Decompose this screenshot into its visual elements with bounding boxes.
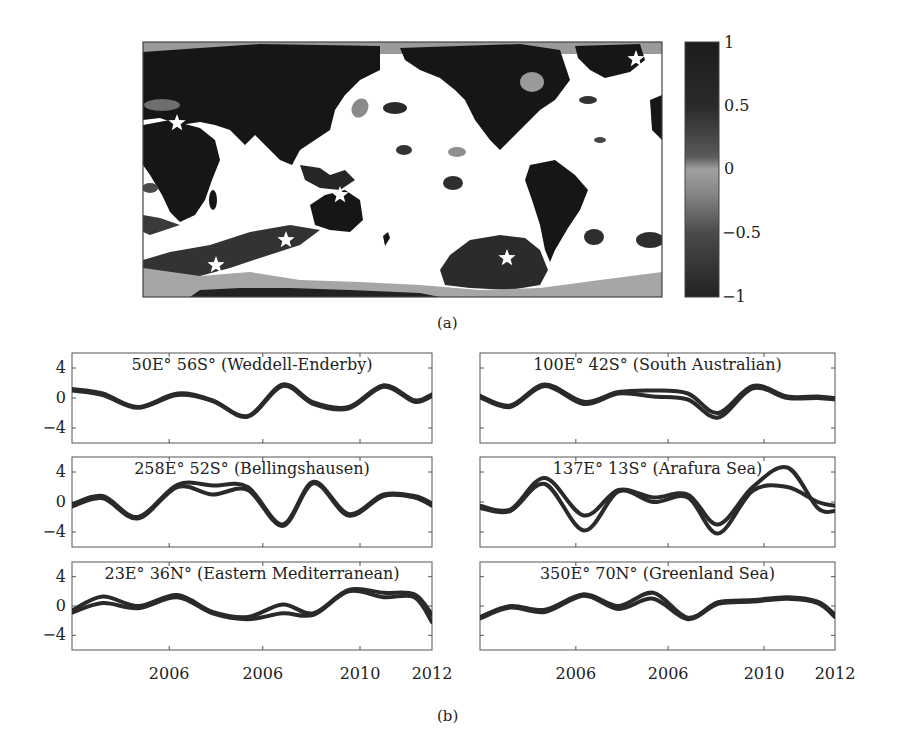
y-tick-label: −4	[36, 418, 66, 437]
subplot-title: 258E° 52S° (Bellingshausen)	[134, 459, 370, 478]
subplot-title: 50E° 56S° (Weddell-Enderby)	[132, 355, 373, 374]
subplot-title: 23E° 36N° (Eastern Mediterranean)	[105, 564, 400, 583]
x-tick-label: 2012	[402, 664, 462, 683]
y-tick-label: −4	[36, 625, 66, 644]
y-tick-label: 0	[36, 596, 66, 615]
x-tick-label: 2012	[805, 664, 865, 683]
subplot-title: 350E° 70N° (Greenland Sea)	[540, 564, 775, 583]
y-tick-label: 4	[36, 462, 66, 481]
subplot-title: 137E° 13S° (Arafura Sea)	[553, 459, 762, 478]
y-tick-label: 0	[36, 388, 66, 407]
x-tick-label: 2006	[546, 664, 606, 683]
y-tick-label: −4	[36, 522, 66, 541]
x-tick-label: 2010	[734, 664, 794, 683]
x-tick-label: 2006	[638, 664, 698, 683]
y-tick-label: 4	[36, 567, 66, 586]
subplot-title: 100E° 42S° (South Australian)	[533, 355, 782, 374]
x-tick-label: 2006	[139, 664, 199, 683]
y-tick-label: 0	[36, 492, 66, 511]
timeseries-panels	[0, 0, 897, 754]
y-tick-label: 4	[36, 358, 66, 377]
x-tick-label: 2010	[330, 664, 390, 683]
x-tick-label: 2006	[233, 664, 293, 683]
panel-b-label: (b)	[437, 707, 458, 725]
